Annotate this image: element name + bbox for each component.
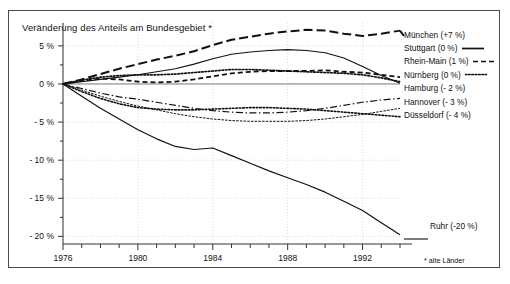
ytick-label: - 5 %	[34, 117, 54, 127]
xtick-label: 1992	[353, 253, 372, 263]
xtick-label: 1984	[203, 253, 222, 263]
legend-entry-label: München (+7 %)	[404, 30, 465, 40]
series-line-n-rnberg	[63, 69, 400, 83]
legend-entry[interactable]: Hamburg (- 2 %)	[404, 82, 504, 95]
legend-line-sample	[465, 70, 487, 79]
ytick-label: - 10 %	[29, 155, 54, 165]
legend-entry[interactable]: Düsseldorf (- 4 %)	[404, 108, 504, 121]
series-line-rhein-main	[63, 70, 400, 84]
legend-entry[interactable]: Rhein-Main (1 %)	[404, 55, 504, 68]
legend-line-sample	[473, 57, 495, 66]
ytick-label: 0 %	[39, 79, 54, 89]
legend-entry-label: Düsseldorf (- 4 %)	[404, 110, 471, 120]
xtick-label: 1980	[128, 253, 147, 263]
legend-entry[interactable]: Stuttgart (0 %)	[404, 41, 504, 54]
chart-figure: Veränderung des Anteils am Bundesgebiet …	[0, 0, 510, 284]
series-line-ruhr	[63, 84, 400, 235]
chart-legend: München (+7 %)Stuttgart (0 %)Rhein-Main …	[404, 28, 504, 122]
legend-entry[interactable]: Hannover (- 3 %)	[404, 95, 504, 108]
xtick-label: 1988	[278, 253, 297, 263]
ytick-label: 5 %	[39, 41, 54, 51]
legend-entry-label: Stuttgart (0 %)	[404, 43, 458, 53]
legend-entry[interactable]: München (+7 %)	[404, 28, 504, 41]
ytick-label: - 20 %	[29, 231, 54, 241]
xtick-label: 1976	[54, 253, 73, 263]
series-line-hamburg	[63, 84, 400, 113]
legend-entry-label: Nürnberg (0 %)	[404, 70, 461, 80]
ytick-label: - 15 %	[29, 193, 54, 203]
ruhr-series-annotation: Ruhr (-20 %)	[430, 221, 478, 231]
legend-entry-label: Hannover (- 3 %)	[404, 97, 467, 107]
legend-entry-label: Hamburg (- 2 %)	[404, 83, 465, 93]
legend-line-sample	[462, 44, 484, 53]
ruhr-leader-line	[404, 226, 428, 228]
legend-entry-label: Rhein-Main (1 %)	[404, 56, 469, 66]
legend-entry[interactable]: Nürnberg (0 %)	[404, 68, 504, 81]
chart-footnote: * alte Länder	[424, 256, 465, 265]
